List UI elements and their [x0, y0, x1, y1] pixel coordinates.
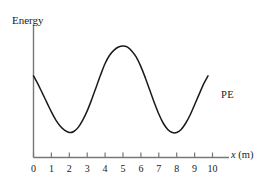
x-tick-label-6: 6 — [134, 164, 148, 174]
x-tick-label-0: 0 — [27, 164, 41, 174]
x-tick-label-10: 10 — [206, 164, 220, 174]
x-axis-label-unit: (m) — [238, 149, 253, 160]
x-axis-label-symbol: x — [231, 149, 236, 160]
x-tick-label-4: 4 — [98, 164, 112, 174]
x-tick-label-7: 7 — [152, 164, 166, 174]
pe-series-label: PE — [221, 90, 234, 101]
x-axis-ticks — [34, 153, 213, 158]
pe-curve — [34, 46, 209, 133]
x-axis-label: x (m) — [231, 150, 253, 161]
x-tick-label-3: 3 — [80, 164, 94, 174]
y-axis-label: Energy — [12, 15, 44, 26]
x-tick-label-9: 9 — [188, 164, 202, 174]
x-tick-label-5: 5 — [116, 164, 130, 174]
x-tick-label-8: 8 — [170, 164, 184, 174]
potential-energy-figure: Energy PE x (m) 012345678910 — [0, 0, 270, 183]
x-tick-label-2: 2 — [62, 164, 76, 174]
x-tick-label-1: 1 — [44, 164, 58, 174]
